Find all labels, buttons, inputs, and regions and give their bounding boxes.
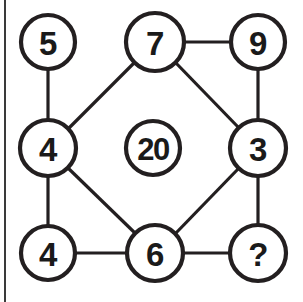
node-label-middle-left: 4: [39, 131, 58, 168]
edge-4-7-diagonal: [175, 62, 239, 128]
node-middle-right[interactable]: 3: [230, 120, 286, 176]
node-label-top-right: 9: [249, 25, 267, 62]
edge-7-3-diagonal: [68, 168, 136, 234]
node-label-middle-right: 3: [249, 131, 267, 168]
node-bottom-right[interactable]: ?: [230, 225, 286, 281]
node-middle-left[interactable]: 4: [20, 120, 76, 176]
node-bottom-left[interactable]: 4: [21, 226, 75, 280]
node-top-left[interactable]: 5: [21, 15, 75, 69]
node-top-center[interactable]: 7: [126, 13, 184, 71]
node-center[interactable]: 20: [126, 121, 180, 175]
node-top-right[interactable]: 9: [231, 15, 285, 69]
node-label-bottom-right: ?: [248, 236, 268, 273]
node-label-top-left: 5: [39, 25, 57, 62]
node-group: 5 7 9 4 20 3 4: [20, 13, 286, 281]
puzzle-canvas: 5 7 9 4 20 3 4: [0, 0, 303, 302]
edge-6-question: [68, 62, 135, 129]
node-label-bottom-center: 6: [146, 236, 164, 273]
node-bottom-center[interactable]: 6: [127, 225, 183, 281]
node-label-center: 20: [137, 132, 169, 167]
node-label-top-center: 7: [146, 25, 164, 62]
puzzle-graph: 5 7 9 4 20 3 4: [0, 0, 303, 302]
edge-4-6-diagonal: [175, 168, 239, 234]
node-label-bottom-left: 4: [39, 236, 58, 273]
